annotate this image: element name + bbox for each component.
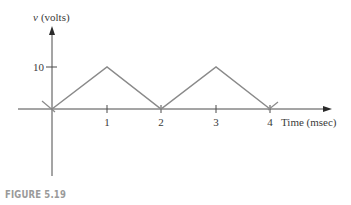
waveform-start-stub	[42, 101, 55, 112]
axes	[18, 32, 324, 176]
x-tick-label-4: 4	[267, 116, 273, 128]
x-tick-label-1: 1	[104, 116, 110, 128]
y-tick-label-10: 10	[33, 61, 45, 73]
figure-caption: FIGURE 5.19	[5, 189, 66, 200]
y-axis-label: v(volts)	[33, 11, 70, 24]
x-axis-label: Time (msec)	[281, 116, 337, 129]
triangle-wave-chart: v(volts) 10 1 2 3 4 Time (msec)	[0, 0, 351, 205]
x-axis-arrow-icon	[323, 106, 332, 112]
x-tick-label-2: 2	[158, 116, 164, 128]
waveform-line	[52, 67, 270, 109]
x-tick-label-3: 3	[213, 116, 219, 128]
y-axis-arrow-icon	[49, 26, 55, 35]
